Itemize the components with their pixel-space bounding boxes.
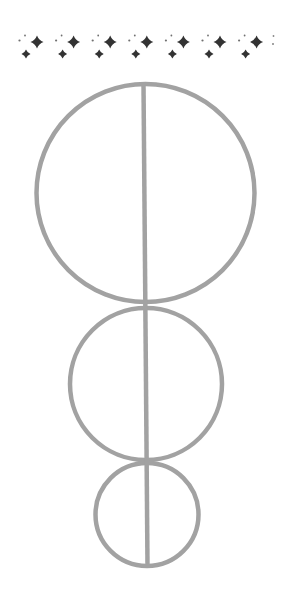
sparkle-dot-icon [171, 35, 173, 37]
sparkle-icon [131, 50, 140, 59]
sparkle-icon [214, 36, 227, 49]
sparkle-icon [58, 50, 67, 59]
stacked-circles-figure [37, 84, 255, 566]
sparkle-dot-icon [244, 35, 246, 37]
sparkle-group [128, 35, 153, 59]
sparkle-dot-icon [61, 35, 63, 37]
sparkle-dot-icon [207, 35, 209, 37]
sparkle-icon [104, 36, 117, 49]
sparkle-icon [95, 50, 104, 59]
sparkle-dot-icon [92, 39, 94, 41]
sparkle-dot-icon [18, 39, 20, 41]
sparkle-icon [250, 36, 263, 49]
sparkle-dot-icon [273, 35, 275, 37]
diagram-canvas [0, 0, 285, 613]
sparkle-dot-icon [238, 39, 240, 41]
sparkle-group [201, 35, 226, 59]
sparkle-icon [168, 50, 177, 59]
sparkle-dot-icon [97, 35, 99, 37]
sparkle-group [18, 35, 43, 59]
vertical-axis-line [144, 84, 148, 566]
sparkle-group [238, 35, 263, 59]
sparkle-icon [22, 50, 31, 59]
sparkle-icon [205, 50, 214, 59]
sparkle-icon [177, 36, 190, 49]
sparkle-group [55, 35, 80, 59]
sparkle-dot-icon [134, 35, 136, 37]
sparkle-icon [140, 36, 153, 49]
sparkle-dot-icon [165, 39, 167, 41]
sparkle-border [18, 35, 274, 59]
sparkle-icon [31, 36, 44, 49]
sparkle-group [92, 35, 117, 59]
sparkle-dot-icon [55, 39, 57, 41]
sparkle-icon [241, 50, 250, 59]
sparkle-dot-icon [128, 39, 130, 41]
sparkle-dot-icon [24, 35, 26, 37]
sparkle-dot-icon [272, 43, 274, 45]
sparkle-icon [67, 36, 80, 49]
sparkle-group [165, 35, 190, 59]
sparkle-dot-icon [201, 39, 203, 41]
